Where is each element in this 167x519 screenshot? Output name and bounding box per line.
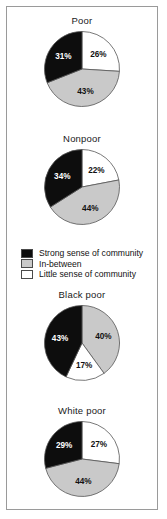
pie-svg-white-poor: 27%44%29% — [39, 419, 125, 501]
panel-title-nonpoor: Nonpoor — [7, 133, 157, 145]
legend-item-inbetween: In-between — [21, 259, 155, 270]
pie-slice-label: 29% — [56, 441, 73, 450]
pie-panel-white-poor: White poor 27%44%29% — [7, 405, 157, 501]
panel-title-poor: Poor — [7, 15, 157, 27]
pie-slice-label: 43% — [77, 87, 94, 96]
pie-slice-label: 40% — [95, 332, 112, 341]
pie-slice-label: 27% — [91, 440, 108, 449]
pie-panel-nonpoor: Nonpoor 22%44%34% — [7, 133, 157, 229]
pie-slice-label: 22% — [88, 166, 105, 175]
pie-panel-poor: Poor 26%43%31% — [7, 15, 157, 111]
legend-swatch-strong — [21, 249, 33, 258]
legend-label-inbetween: In-between — [39, 259, 82, 270]
panel-title-black-poor: Black poor — [7, 289, 157, 301]
legend-swatch-little — [21, 270, 33, 279]
legend-label-little: Little sense of community — [39, 269, 136, 280]
legend-swatch-inbetween — [21, 259, 33, 268]
pie-chart-white-poor: 27%44%29% — [7, 417, 157, 501]
figure-frame: Poor 26%43%31% Nonpoor 22%44%34% Strong … — [6, 6, 158, 510]
legend-item-little: Little sense of community — [21, 269, 155, 280]
pie-svg-nonpoor: 22%44%34% — [39, 147, 125, 229]
pie-svg-black-poor: 40%17%43% — [39, 303, 125, 385]
pie-slice-label: 43% — [52, 334, 69, 343]
pie-slice-label: 31% — [55, 52, 72, 61]
legend-item-strong: Strong sense of community — [21, 248, 155, 259]
panel-title-white-poor: White poor — [7, 405, 157, 417]
pie-slice-label: 44% — [82, 204, 99, 213]
pie-slice-label: 44% — [75, 477, 92, 486]
legend-label-strong: Strong sense of community — [39, 248, 143, 259]
pie-slice-label: 17% — [76, 361, 93, 370]
pie-svg-poor: 26%43%31% — [39, 29, 125, 111]
pie-chart-poor: 26%43%31% — [7, 27, 157, 111]
pie-panel-black-poor: Black poor 40%17%43% — [7, 289, 157, 385]
pie-chart-black-poor: 40%17%43% — [7, 301, 157, 385]
pie-slice-label: 26% — [90, 50, 107, 59]
pie-chart-nonpoor: 22%44%34% — [7, 145, 157, 229]
chart-legend: Strong sense of community In-between Lit… — [21, 248, 155, 280]
pie-slice-label: 34% — [54, 172, 71, 181]
